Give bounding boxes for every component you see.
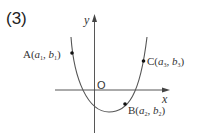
point-b-label: B(a2, b2) [128,104,166,117]
parabola-diagram: y x O A(a1, b1) C(a3, b3) B(a2, b2) [0,0,197,136]
point-a-label: A(a1, b1) [23,48,61,61]
point-b [123,102,127,106]
origin-label: O [97,79,106,91]
point-c-label: C(a3, b3) [147,55,185,68]
y-axis-label: y [83,13,90,27]
y-axis-arrow-icon [92,14,97,22]
point-c [142,59,146,63]
parabola-curve [71,37,147,112]
point-a [70,51,74,55]
